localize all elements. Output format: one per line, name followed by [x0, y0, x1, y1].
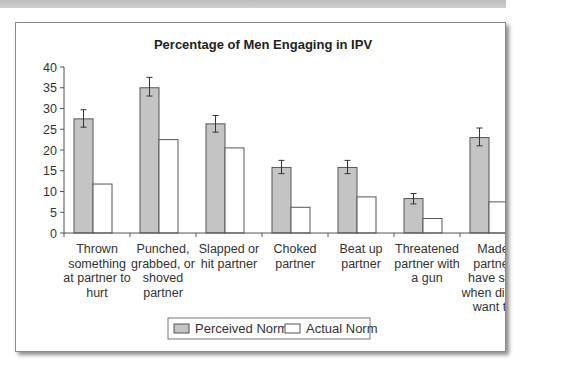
- bar-actual-norm: [159, 140, 178, 233]
- chart-panel: Percentage of Men Engaging in IPV 051015…: [15, 22, 506, 352]
- x-axis: Thrownsomethingat partner tohurtPunched,…: [63, 233, 505, 314]
- legend-label-perceived-norm: Perceived Norm: [195, 321, 288, 336]
- bars: [74, 77, 505, 233]
- y-tick-label: 40: [43, 61, 57, 75]
- chart-title: Percentage of Men Engaging in IPV: [154, 37, 372, 52]
- y-tick-label: 0: [50, 227, 57, 241]
- bar-perceived-norm: [338, 167, 357, 233]
- bar-actual-norm: [423, 218, 442, 233]
- y-axis: 0510152025303540: [43, 61, 64, 241]
- y-tick-label: 10: [43, 185, 57, 199]
- bar-perceived-norm: [206, 124, 225, 233]
- bar-actual-norm: [93, 184, 112, 233]
- bar-actual-norm: [225, 148, 244, 233]
- x-category-label: Chokedpartner: [273, 242, 316, 271]
- y-tick-label: 20: [43, 144, 57, 158]
- legend-label-actual-norm: Actual Norm: [306, 321, 378, 336]
- bar-perceived-norm: [470, 138, 489, 233]
- bar-perceived-norm: [74, 119, 93, 233]
- bar-actual-norm: [291, 207, 310, 233]
- x-category-label: Madepartnerhave sexwhen didn'twant to: [461, 242, 505, 314]
- y-tick-label: 35: [43, 81, 57, 95]
- x-category-label: Threatenedpartner witha gun: [394, 242, 459, 285]
- y-tick-label: 25: [43, 123, 57, 137]
- y-tick-label: 30: [43, 102, 57, 116]
- y-tick-label: 5: [50, 206, 57, 220]
- x-category-label: Punched,grabbed, orshovedpartner: [131, 242, 195, 300]
- bar-perceived-norm: [272, 167, 291, 233]
- legend-swatch-perceived-norm: [174, 324, 189, 333]
- page-header-band: [0, 0, 506, 8]
- x-category-label: Beat uppartner: [339, 242, 382, 271]
- legend: Perceived NormActual Norm: [168, 318, 378, 339]
- bar-chart: Percentage of Men Engaging in IPV 051015…: [16, 23, 505, 351]
- bar-actual-norm: [357, 197, 376, 233]
- x-category-label: Thrownsomethingat partner tohurt: [63, 242, 130, 300]
- x-category-label: Slapped orhit partner: [199, 242, 259, 271]
- y-tick-label: 15: [43, 164, 57, 178]
- bar-actual-norm: [489, 202, 505, 233]
- bar-perceived-norm: [140, 88, 159, 233]
- legend-swatch-actual-norm: [285, 324, 300, 333]
